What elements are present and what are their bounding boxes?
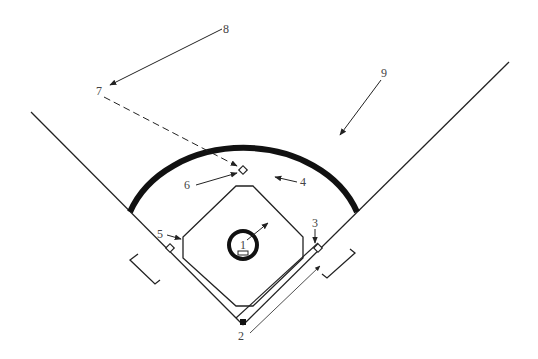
label-5: 5: [157, 227, 163, 241]
left-foul-line: [31, 112, 243, 325]
arrow-4: [275, 177, 297, 182]
first-base-coach-box: [322, 249, 355, 278]
third-base: [166, 244, 174, 252]
arrow-5: [167, 235, 181, 239]
label-2: 2: [238, 329, 244, 343]
right-foul-line: [243, 62, 509, 325]
label-9: 9: [381, 66, 387, 80]
arrow-9: [340, 80, 381, 135]
second-base: [239, 166, 247, 174]
label-3: 3: [312, 216, 318, 230]
label-7: 7: [96, 84, 102, 98]
dashed-line-7-to-2nd: [104, 97, 237, 166]
arrow-8-to-7: [110, 29, 222, 85]
home-plate: [240, 319, 246, 325]
label-4: 4: [300, 175, 306, 189]
label-8: 8: [223, 22, 229, 36]
third-base-coach-box: [130, 254, 160, 284]
infield-arc: [130, 148, 357, 212]
label-1: 1: [240, 238, 246, 252]
arrow-6: [196, 173, 237, 185]
field-diagram: 1 2 3 4 5 6 7 8 9: [0, 0, 538, 359]
label-6: 6: [184, 178, 190, 192]
